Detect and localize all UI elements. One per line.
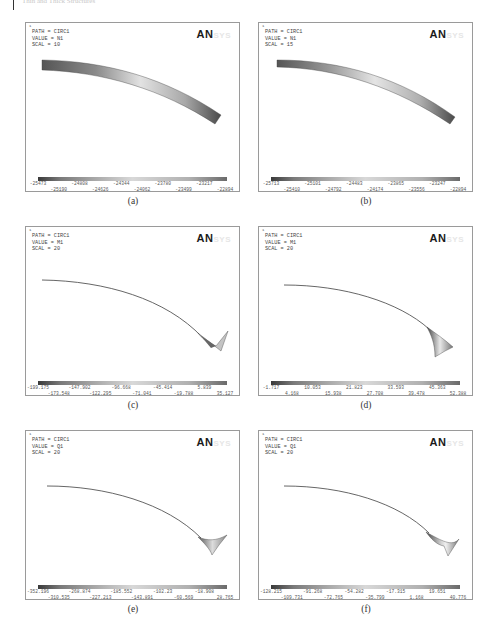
running-head: Thin and Thick Structures (22, 0, 95, 5)
legend-row-bottom: -25190-24626-24062-23499-22894 (38, 187, 227, 193)
color-legend: -352.196-268.874-185.552-102.23-18.908 -… (38, 585, 227, 601)
caption-b: (b) (360, 196, 371, 206)
caption-e: (e) (128, 604, 139, 614)
color-legend: -25473-24808-24344-23780-23217 -25190-24… (38, 177, 227, 193)
legend-row-bottom: -173.548-122.295-71.041-19.78835.127 (38, 391, 227, 397)
panel-b: 1 PATH = CIRC1VALUE = N1SCAL = 15 ANSYS … (258, 22, 473, 192)
legend-row-bottom: -310.535-227.213-143.891-60.56928.765 (38, 595, 227, 601)
header-rule (13, 0, 14, 10)
arch-band-plot (259, 23, 474, 173)
legend-row-bottom: -109.731-72.765-35.7991.16840.776 (271, 595, 460, 601)
caption-a: (a) (128, 196, 139, 206)
panel-c: 1 PATH = CIRC1VALUE = M1SCAL = 20 ANSYS … (25, 226, 240, 396)
caption-d: (d) (360, 400, 371, 410)
page-header: Thin and Thick Structures (0, 0, 493, 12)
caption-c: (c) (128, 400, 139, 410)
color-legend: -199.175-147.902-96.668-45.4145.839 -173… (38, 381, 227, 397)
panel-a: 1 PATH = CIRC1VALUE = N1SCAL = 10 ANSYS … (25, 22, 240, 192)
panel-d: 1 PATH = CIRC1VALUE = M1SCAL = 20 ANSYS … (258, 226, 473, 396)
legend-row-bottom: -25410-24792-24174-23556-22894 (271, 187, 460, 193)
color-legend: -128.215-91.268-54.282-17.31519.651 -109… (271, 585, 460, 601)
color-legend: -1.71710.05321.82333.59345.363 4.16815.9… (271, 381, 460, 397)
moment-curve-plot (26, 227, 241, 377)
color-legend: -25713-25101-24483-23865-23247 -25410-24… (271, 177, 460, 193)
caption-f: (f) (361, 604, 371, 614)
shear-curve-plot (259, 431, 474, 581)
panel-f: 1 PATH = CIRC1VALUE = Q1SCAL = 20 ANSYS … (258, 430, 473, 600)
moment-curve-plot (259, 227, 474, 377)
arch-band-plot (26, 23, 241, 173)
legend-row-bottom: 4.16815.93827.70839.47852.388 (271, 391, 460, 397)
panel-e: 1 PATH = CIRC1VALUE = Q1SCAL = 20 ANSYS … (25, 430, 240, 600)
shear-curve-plot (26, 431, 241, 581)
